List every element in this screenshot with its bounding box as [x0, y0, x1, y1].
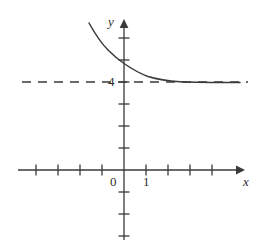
origin-label: 0 [110, 175, 117, 188]
x-axis-label: x [243, 175, 249, 188]
coordinate-plot [0, 0, 260, 245]
graph-figure: y x 4 0 1 [0, 0, 260, 245]
x-tick-label-1: 1 [143, 175, 150, 188]
y-tick-label-4: 4 [108, 75, 115, 88]
y-axis-label: y [108, 15, 114, 28]
y-axis-arrowhead [120, 19, 129, 28]
